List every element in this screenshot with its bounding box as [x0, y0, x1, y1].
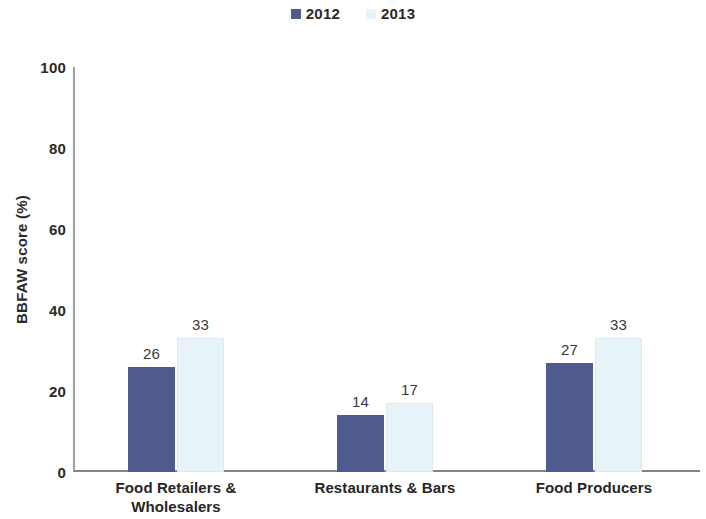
x-label-line-1: Restaurants & Bars: [310, 478, 460, 497]
x-label-line-1: Food Retailers &: [101, 478, 251, 497]
bar-groups: 26 33 14 17 27 33: [73, 67, 700, 472]
chart-legend: 2012 2013: [0, 6, 706, 21]
legend-swatch-2013: [366, 9, 376, 19]
bar-chart: 2012 2013 BBFAW score (%) 100 80 60 40 2…: [0, 0, 706, 519]
bar-group-food-retailers-wholesalers: 26 33: [101, 67, 251, 472]
y-tick-80: 80: [0, 140, 66, 157]
bar-value-2012-food-retailers-wholesalers: 26: [128, 345, 175, 362]
bar-group-food-producers: 27 33: [519, 67, 669, 472]
bar-2012-restaurants-bars: [337, 415, 384, 472]
bar-2013-restaurants-bars: [386, 403, 433, 472]
bar-wrap-2013-restaurants-bars: 17: [386, 67, 433, 472]
bar-value-2012-restaurants-bars: 14: [337, 393, 384, 410]
bar-value-2013-restaurants-bars: 17: [386, 381, 433, 398]
y-tick-60: 60: [0, 221, 66, 238]
x-label-line-1: Food Producers: [519, 478, 669, 497]
bar-value-2013-food-retailers-wholesalers: 33: [177, 316, 224, 333]
bar-2013-food-retailers-wholesalers: [177, 338, 224, 472]
bar-wrap-2012-food-producers: 27: [546, 67, 593, 472]
bar-2013-food-producers: [595, 338, 642, 472]
x-label-food-producers: Food Producers: [519, 478, 669, 497]
x-label-food-retailers-wholesalers: Food Retailers & Wholesalers: [101, 478, 251, 516]
bar-group-restaurants-bars: 14 17: [310, 67, 460, 472]
legend-swatch-2012: [291, 9, 301, 19]
legend-item-2013: 2013: [366, 6, 415, 21]
legend-label-2013: 2013: [381, 6, 415, 21]
bar-2012-food-producers: [546, 363, 593, 472]
y-tick-0: 0: [0, 464, 66, 481]
y-tick-20: 20: [0, 383, 66, 400]
bar-wrap-2013-food-producers: 33: [595, 67, 642, 472]
bar-wrap-2013-food-retailers-wholesalers: 33: [177, 67, 224, 472]
y-tick-40: 40: [0, 302, 66, 319]
bar-value-2013-food-producers: 33: [595, 316, 642, 333]
y-axis-title: BBFAW score (%): [8, 0, 34, 519]
legend-label-2012: 2012: [306, 6, 340, 21]
x-label-line-2: Wholesalers: [101, 497, 251, 516]
x-axis-category-labels: Food Retailers & Wholesalers Restaurants…: [73, 478, 700, 519]
x-label-restaurants-bars: Restaurants & Bars: [310, 478, 460, 497]
bar-wrap-2012-restaurants-bars: 14: [337, 67, 384, 472]
bar-wrap-2012-food-retailers-wholesalers: 26: [128, 67, 175, 472]
legend-item-2012: 2012: [291, 6, 340, 21]
bar-2012-food-retailers-wholesalers: [128, 367, 175, 472]
y-tick-100: 100: [0, 59, 66, 76]
bar-value-2012-food-producers: 27: [546, 341, 593, 358]
